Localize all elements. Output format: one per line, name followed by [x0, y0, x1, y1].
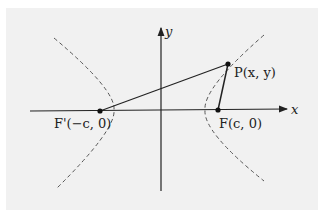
right-branch [205, 35, 264, 181]
point-p [225, 61, 230, 66]
segment-f-p [218, 64, 228, 110]
left-branch [54, 38, 114, 189]
point-f-label: F(c, 0) [219, 116, 262, 131]
hyperbola-diagram: x y P(x, y) F(c, 0) F'(−c, 0) [0, 0, 323, 219]
x-axis-label: x [291, 102, 299, 117]
segment-fprime-p [100, 64, 228, 111]
y-axis-label: y [164, 24, 173, 39]
point-f-prime [97, 108, 102, 113]
point-p-label: P(x, y) [234, 65, 276, 80]
point-f [215, 107, 220, 112]
point-f-prime-label: F'(−c, 0) [54, 116, 111, 131]
x-axis [30, 109, 287, 111]
figure: x y P(x, y) F(c, 0) F'(−c, 0) [0, 0, 323, 219]
